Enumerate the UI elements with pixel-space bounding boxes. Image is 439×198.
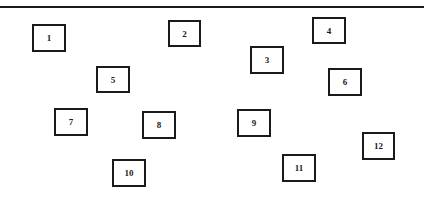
box-3: 3 (250, 46, 284, 74)
box-11: 11 (282, 154, 316, 182)
box-7: 7 (54, 108, 88, 136)
box-2: 2 (168, 20, 201, 47)
box-9: 9 (237, 109, 271, 137)
box-5: 5 (96, 66, 130, 93)
box-4: 4 (312, 17, 346, 44)
box-10: 10 (112, 159, 146, 187)
box-1: 1 (32, 24, 66, 52)
box-6: 6 (328, 68, 362, 96)
box-8: 8 (142, 111, 176, 139)
box-12: 12 (362, 132, 395, 160)
top-divider-line (0, 6, 424, 8)
